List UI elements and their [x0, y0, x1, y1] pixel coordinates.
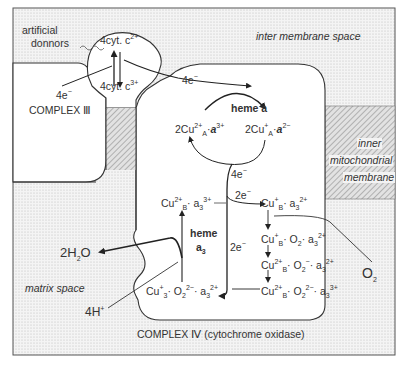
electrons-4e-heme: 4e−	[231, 167, 247, 179]
complex-iv-body	[134, 64, 325, 320]
heme-a-state-reduced: 2Cu+A·a2−	[245, 122, 290, 137]
state-cuB1-a3-2: Cu+B· a32+	[261, 196, 307, 211]
state-cuB2-a3-3: Cu2+B· a33+	[161, 196, 211, 211]
heme-a3-label-1: heme	[190, 228, 217, 239]
electrons-4e-right: 4e−	[182, 73, 198, 85]
complex-iii-label: COMPLEX Ⅲ	[29, 105, 91, 116]
electrons-2e-top: 2e−	[235, 188, 251, 200]
state-cuB2-o22m-a3-3: Cu2+B· O22−· a33+	[261, 284, 338, 299]
intermembrane-space-label: inter membrane space	[256, 31, 360, 42]
inner-membrane-right	[325, 106, 395, 199]
state-cuB2-o2m-a3-2: Cu2+B· O2−· a32+	[261, 258, 334, 273]
state-cu3-o22m-a3-2: Cu+3· O22−· a32+	[146, 284, 218, 299]
heme-a-state-oxidized: 2Cu2+A·a3+	[175, 122, 224, 137]
heme-a3-label-2: a3	[196, 242, 206, 255]
artificial-donors-label-2: donnors	[31, 38, 69, 49]
inner-membrane-label-1: inner	[357, 138, 382, 149]
protons-input: 4H+	[85, 305, 104, 318]
water-product: 2H2O	[60, 246, 91, 262]
matrix-space-label: matrix space	[25, 283, 85, 294]
electrons-4e-left: 4e−	[56, 88, 72, 100]
cytochrome-oxidase-diagram	[0, 0, 405, 366]
cyt-c-oxidized: 4cyt. c3+	[100, 79, 138, 91]
oxygen-input: O2	[362, 266, 377, 283]
heme-a-label: heme a	[231, 103, 267, 114]
electrons-2e-mid: 2e−	[230, 240, 246, 252]
inner-membrane-label-2: mitochondrial	[329, 155, 393, 166]
artificial-donors-label-1: artificial	[22, 25, 58, 36]
inner-membrane-label-3: membrane	[343, 172, 395, 183]
state-cuB1-o2-a3-2: Cu+B· O2· a32+	[261, 232, 326, 247]
complex-iv-label: COMPLEX Ⅳ (cytochrome oxidase)	[137, 329, 305, 340]
cyt-c-reduced: 4cyt. c2+	[100, 33, 138, 45]
